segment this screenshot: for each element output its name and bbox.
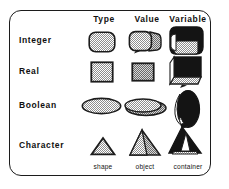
row-label-character: Character — [19, 140, 64, 150]
shape-triangle-container — [169, 123, 201, 154]
shape-cube-container — [170, 57, 201, 88]
shape-ellipse-3d — [125, 99, 166, 116]
cell-integer-variable — [168, 25, 206, 57]
diagram-canvas: Type Value Variable Integer Real Boolean… — [0, 0, 229, 189]
shape-rounded-rectangle-outline — [89, 32, 115, 52]
row-label-real: Real — [19, 66, 39, 76]
cell-character-value — [128, 128, 162, 158]
cell-boolean-type — [81, 97, 122, 115]
row-label-integer: Integer — [19, 35, 52, 45]
cell-real-variable — [168, 55, 206, 89]
cell-boolean-value — [123, 96, 167, 118]
cell-boolean-variable — [172, 89, 204, 129]
shape-square-filled — [132, 63, 153, 80]
shape-triangle-3d — [130, 130, 160, 155]
cell-integer-type — [88, 31, 116, 53]
shape-ellipse-vertical-container — [175, 91, 200, 128]
shape-rounded-rectangle-3d — [129, 32, 161, 54]
column-header-value: Value — [126, 14, 168, 24]
row-label-boolean: Boolean — [19, 100, 57, 110]
cell-integer-value — [128, 30, 162, 54]
shape-triangle-outline — [92, 138, 115, 154]
cell-character-variable — [166, 124, 206, 160]
cell-real-value — [131, 62, 155, 82]
column-header-variable: Variable — [164, 14, 212, 24]
cell-character-type — [90, 136, 116, 156]
shape-rounded-rectangle-container — [170, 27, 203, 54]
cell-real-type — [90, 61, 114, 83]
shape-square-outline — [91, 62, 112, 81]
footer-label-shape: shape — [83, 163, 123, 170]
column-header-type: Type — [83, 14, 125, 24]
footer-label-container: container — [164, 163, 212, 170]
shape-ellipse-outline — [82, 98, 120, 113]
footer-label-object: object — [124, 163, 166, 170]
